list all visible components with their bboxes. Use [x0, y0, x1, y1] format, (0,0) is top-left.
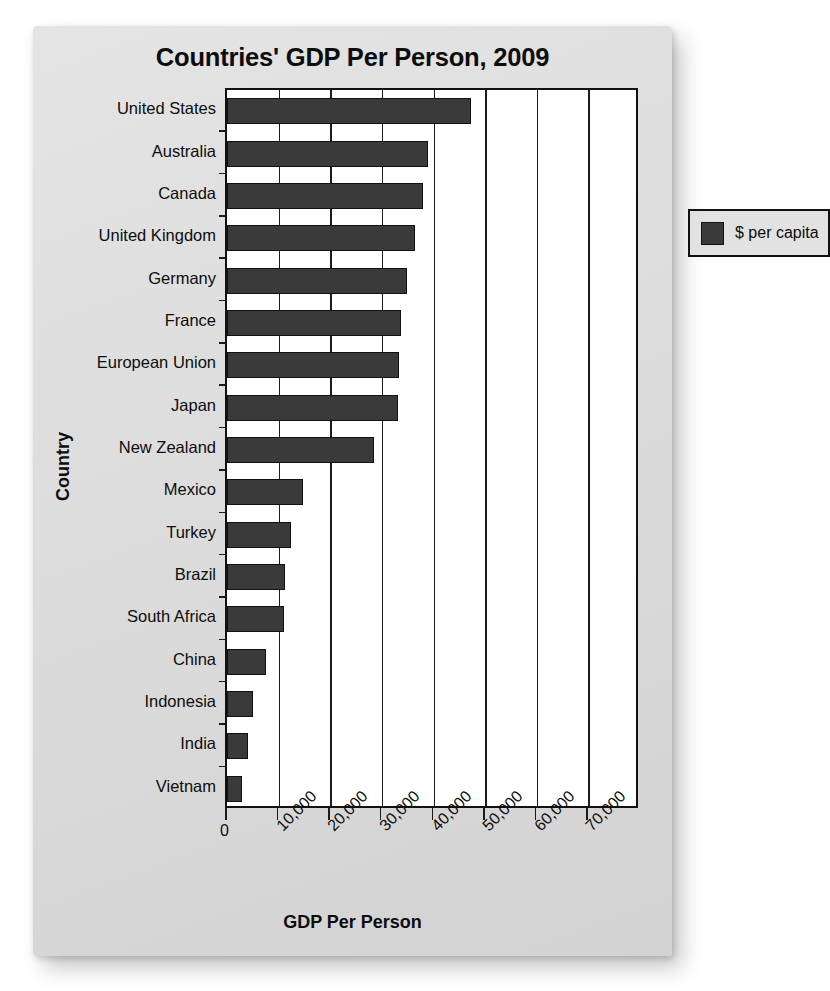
bar-row [227, 776, 640, 802]
bar-row [227, 437, 640, 463]
bar-row [227, 98, 640, 124]
bar [227, 691, 253, 717]
bar [227, 98, 471, 124]
bar [227, 479, 303, 505]
bar [227, 776, 242, 802]
bar [227, 268, 407, 294]
bar [227, 649, 266, 675]
legend: $ per capita [688, 209, 830, 257]
bar-row [227, 691, 640, 717]
bar-row [227, 395, 640, 421]
bar-row [227, 649, 640, 675]
bar [227, 183, 423, 209]
bar [227, 564, 285, 590]
bar-row [227, 352, 640, 378]
legend-swatch-per-capita [701, 222, 724, 245]
bar [227, 606, 284, 632]
bar [227, 395, 398, 421]
chart-title: Countries' GDP Per Person, 2009 [33, 43, 672, 72]
bar [227, 733, 248, 759]
bar-row [227, 733, 640, 759]
chart-card: Countries' GDP Per Person, 2009 Country … [33, 26, 672, 956]
bar [227, 352, 399, 378]
legend-label-per-capita: $ per capita [735, 224, 819, 242]
x-axis-title: GDP Per Person [33, 912, 672, 933]
bar-row [227, 522, 640, 548]
bar [227, 437, 374, 463]
bar-row [227, 141, 640, 167]
bar-row [227, 268, 640, 294]
bar [227, 522, 291, 548]
y-axis-ticks [33, 88, 233, 808]
bar-row [227, 606, 640, 632]
bar [227, 310, 401, 336]
bar [227, 225, 415, 251]
x-axis-tick-labels: 010,00020,00030,00040,00050,00060,00070,… [225, 822, 638, 912]
x-axis-tick [225, 808, 227, 820]
bar-row [227, 183, 640, 209]
bar-row [227, 225, 640, 251]
bar-row [227, 564, 640, 590]
bar-row [227, 479, 640, 505]
bar-row [227, 310, 640, 336]
x-axis-tick-label: 0 [220, 822, 229, 840]
bar [227, 141, 428, 167]
plot-area: $ per capita [225, 88, 638, 808]
